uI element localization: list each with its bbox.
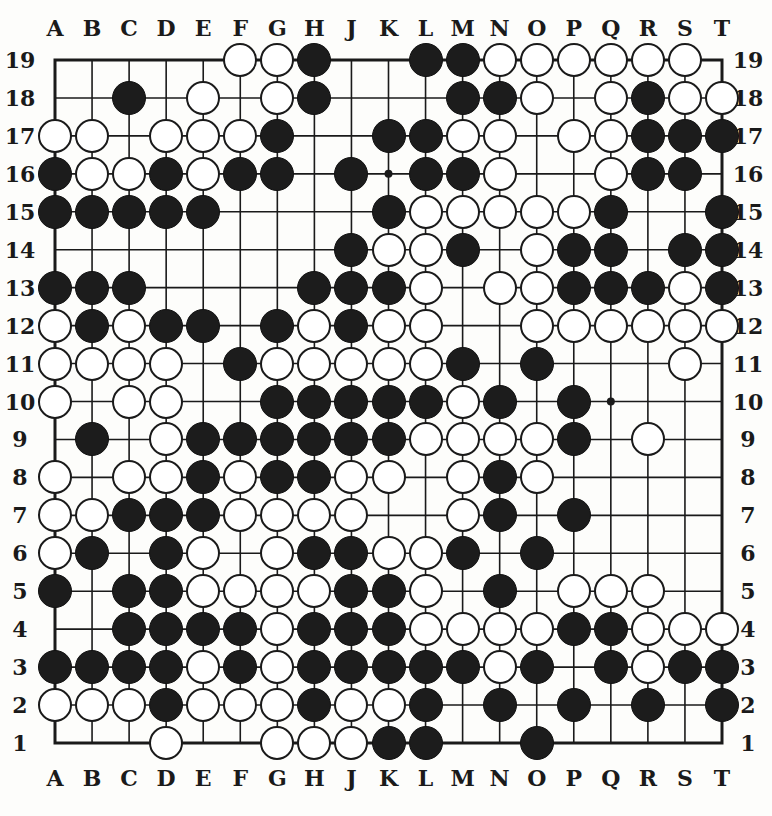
column-label-M: M	[445, 767, 481, 789]
black-stone-L19	[409, 43, 443, 77]
column-label-Q: Q	[593, 767, 629, 789]
column-label-R: R	[630, 17, 666, 39]
white-stone-K14	[372, 233, 406, 267]
black-stone-J14	[334, 233, 368, 267]
black-stone-F11	[223, 347, 257, 381]
black-stone-A15	[38, 195, 72, 229]
black-stone-D2	[149, 688, 183, 722]
black-stone-B12	[75, 309, 109, 343]
black-stone-J13	[334, 271, 368, 305]
white-stone-L6	[409, 536, 443, 570]
row-label-19: 19	[730, 49, 766, 71]
black-stone-O11	[520, 347, 554, 381]
white-stone-K6	[372, 536, 406, 570]
white-stone-L15	[409, 195, 443, 229]
black-stone-A5	[38, 574, 72, 608]
black-stone-T15	[705, 195, 739, 229]
white-stone-N16	[483, 157, 517, 191]
row-label-17: 17	[2, 125, 38, 147]
white-stone-L9	[409, 422, 443, 456]
white-stone-O19	[520, 43, 554, 77]
black-stone-K15	[372, 195, 406, 229]
row-label-10: 10	[730, 391, 766, 413]
column-label-N: N	[482, 767, 518, 789]
white-stone-A2	[38, 688, 72, 722]
black-stone-S3	[668, 650, 702, 684]
white-stone-B2	[75, 688, 109, 722]
row-label-6: 6	[2, 542, 38, 564]
white-stone-L13	[409, 271, 443, 305]
black-stone-C15	[112, 195, 146, 229]
white-stone-L14	[409, 233, 443, 267]
white-stone-D17	[149, 119, 183, 153]
white-stone-A17	[38, 119, 72, 153]
black-stone-D12	[149, 309, 183, 343]
white-stone-H12	[297, 309, 331, 343]
white-stone-L11	[409, 347, 443, 381]
white-stone-R12	[631, 309, 665, 343]
column-label-R: R	[630, 767, 666, 789]
column-label-J: J	[333, 17, 369, 39]
black-stone-L2	[409, 688, 443, 722]
black-stone-O1	[520, 726, 554, 760]
column-label-J: J	[333, 767, 369, 789]
black-stone-C13	[112, 271, 146, 305]
row-label-1: 1	[730, 732, 766, 754]
column-label-L: L	[408, 767, 444, 789]
white-stone-L12	[409, 309, 443, 343]
black-stone-N2	[483, 688, 517, 722]
white-stone-O15	[520, 195, 554, 229]
white-stone-C10	[112, 385, 146, 419]
column-label-N: N	[482, 17, 518, 39]
white-stone-N15	[483, 195, 517, 229]
black-stone-Q15	[594, 195, 628, 229]
white-stone-S12	[668, 309, 702, 343]
white-stone-P5	[557, 574, 591, 608]
black-stone-Q13	[594, 271, 628, 305]
black-stone-P9	[557, 422, 591, 456]
row-label-4: 4	[2, 618, 38, 640]
black-stone-G16	[260, 157, 294, 191]
white-stone-R5	[631, 574, 665, 608]
white-stone-O8	[520, 460, 554, 494]
black-stone-M16	[446, 157, 480, 191]
column-label-L: L	[408, 17, 444, 39]
white-stone-P17	[557, 119, 591, 153]
row-label-18: 18	[2, 87, 38, 109]
black-stone-M11	[446, 347, 480, 381]
column-label-T: T	[704, 17, 740, 39]
column-label-E: E	[185, 17, 221, 39]
column-label-H: H	[296, 767, 332, 789]
column-label-T: T	[704, 767, 740, 789]
black-stone-M14	[446, 233, 480, 267]
white-stone-O9	[520, 422, 554, 456]
white-stone-S11	[668, 347, 702, 381]
black-stone-F16	[223, 157, 257, 191]
white-stone-K11	[372, 347, 406, 381]
black-stone-M3	[446, 650, 480, 684]
black-stone-L10	[409, 385, 443, 419]
black-stone-G17	[260, 119, 294, 153]
white-stone-N13	[483, 271, 517, 305]
row-label-8: 8	[2, 466, 38, 488]
white-stone-P12	[557, 309, 591, 343]
row-label-16: 16	[730, 163, 766, 185]
column-label-H: H	[296, 17, 332, 39]
black-stone-E15	[186, 195, 220, 229]
white-stone-A11	[38, 347, 72, 381]
row-label-7: 7	[730, 504, 766, 526]
black-stone-K9	[372, 422, 406, 456]
white-stone-M15	[446, 195, 480, 229]
black-stone-L3	[409, 650, 443, 684]
black-stone-B15	[75, 195, 109, 229]
black-stone-T2	[705, 688, 739, 722]
black-stone-K1	[372, 726, 406, 760]
black-stone-M19	[446, 43, 480, 77]
black-stone-K4	[372, 612, 406, 646]
black-stone-P4	[557, 612, 591, 646]
white-stone-S4	[668, 612, 702, 646]
row-label-3: 3	[2, 656, 38, 678]
row-label-7: 7	[2, 504, 38, 526]
black-stone-N8	[483, 460, 517, 494]
row-label-5: 5	[730, 580, 766, 602]
